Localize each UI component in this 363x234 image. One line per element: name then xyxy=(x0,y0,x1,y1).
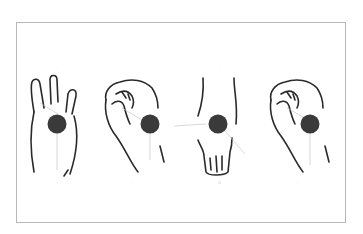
panel-back-of-hand: ·· 11 xyxy=(176,0,261,234)
bottom-label: ·· xyxy=(297,181,299,185)
back-of-hand-icon xyxy=(176,0,261,234)
panel-curled-fist-2: · ·· xyxy=(265,0,350,234)
marker-dot xyxy=(301,115,320,134)
curled-fist-hand-icon xyxy=(265,0,350,234)
marker-dot xyxy=(209,115,228,134)
panel-curled-fist: · ·· xyxy=(100,0,185,234)
marker-dot xyxy=(141,115,160,134)
curled-fist-hand-icon xyxy=(100,0,185,234)
bottom-label: 11 xyxy=(218,181,221,185)
open-palm-hand-icon xyxy=(24,0,109,234)
panel-open-palm: · ·· xyxy=(24,0,109,234)
bottom-label: ·· xyxy=(55,181,57,185)
marker-dot xyxy=(48,115,67,134)
bottom-label: ·· xyxy=(132,181,134,185)
